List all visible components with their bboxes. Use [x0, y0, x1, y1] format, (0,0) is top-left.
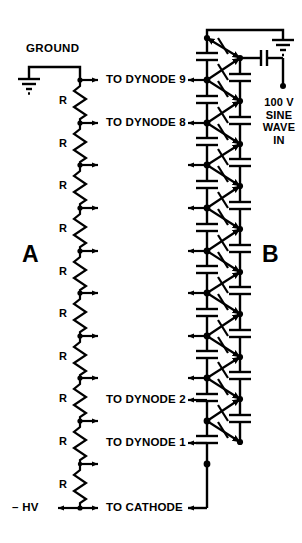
resistor-label-8: R [59, 393, 67, 404]
cathode-lead [188, 464, 207, 508]
resistor-label-10: R [59, 479, 67, 490]
source-label-line-4: IN [258, 134, 300, 147]
panel-a-label: A [22, 243, 39, 266]
resistor-label-9: R [59, 436, 67, 447]
figure-root: GROUND TO DYNODE 9 TO DYNODE 8 TO DYNODE… [0, 0, 302, 543]
tap-label-dynode-9: TO DYNODE 9 [106, 74, 186, 86]
ground-symbol-left [18, 72, 40, 94]
ladder-output-arrows [188, 80, 207, 443]
source-label-line-1: 100 V [258, 96, 300, 109]
resistor-label-1: R [59, 95, 67, 106]
negative-hv-label: – HV [12, 502, 39, 514]
ground-symbol-right [272, 40, 294, 55]
tap-label-dynode-2: TO DYNODE 2 [106, 394, 186, 406]
resistor-label-5: R [59, 266, 67, 277]
resistor-label-2: R [59, 138, 67, 149]
ladder-right-capacitors [229, 58, 251, 442]
resistor-label-6: R [59, 308, 67, 319]
source-label: 100 V SINE WAVE IN [258, 96, 300, 146]
source-terminal-dot [280, 83, 286, 89]
ground-label: GROUND [26, 43, 80, 55]
resistor-label-4: R [59, 223, 67, 234]
tap-label-cathode: TO CATHODE [106, 502, 183, 514]
panel-b-label: B [262, 243, 279, 266]
tap-label-dynode-1: TO DYNODE 1 [106, 437, 186, 449]
ladder-diodes [207, 38, 240, 442]
source-label-line-2: SINE [258, 109, 300, 122]
panel-a-divider [18, 67, 98, 511]
resistor-label-7: R [59, 351, 67, 362]
source-label-line-3: WAVE [258, 121, 300, 134]
resistor-label-3: R [59, 180, 67, 191]
tap-label-dynode-8: TO DYNODE 8 [106, 117, 186, 129]
